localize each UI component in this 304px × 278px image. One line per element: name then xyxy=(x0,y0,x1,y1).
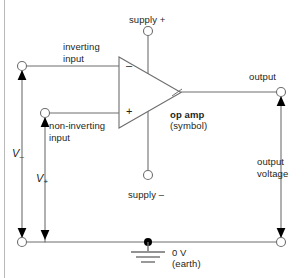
terminal-output[interactable] xyxy=(277,88,286,97)
output-voltage-label: outputvoltage xyxy=(257,156,288,179)
arrowhead-output-voltage-up xyxy=(277,96,286,106)
terminal-inverting-input[interactable] xyxy=(18,62,27,71)
arrowhead-output-voltage-down xyxy=(277,228,286,238)
v-minus-subscript: – xyxy=(19,152,24,161)
circuit-diagram-canvas: supply + supply – invertinginput non-inv… xyxy=(0,0,304,278)
terminal-ground-left[interactable] xyxy=(18,238,27,247)
terminal-supply-plus[interactable] xyxy=(144,27,153,36)
output-label: output xyxy=(249,71,276,83)
v-minus-label: V– xyxy=(12,148,24,163)
terminal-supply-minus[interactable] xyxy=(144,171,153,180)
terminal-non-inverting-input[interactable] xyxy=(41,109,50,118)
inverting-input-label: invertinginput xyxy=(63,41,100,64)
ground-voltage-label: 0 V xyxy=(172,247,187,259)
arrowhead-v-minus-down xyxy=(18,228,27,238)
circuit-schematic-svg xyxy=(0,0,304,278)
earth-symbol xyxy=(131,242,165,262)
non-inverting-input-label: non-invertinginput xyxy=(49,120,105,143)
op-amp-name-label: op amp xyxy=(170,109,204,121)
non-inverting-terminal-sign: + xyxy=(126,106,133,118)
supply-plus-label: supply + xyxy=(129,14,165,26)
arrowhead-v-minus-up xyxy=(18,70,27,80)
v-plus-subscript: + xyxy=(43,177,48,186)
supply-minus-label: supply – xyxy=(128,189,164,201)
inverting-terminal-sign: – xyxy=(126,60,132,72)
ground-earth-label: (earth) xyxy=(172,258,201,270)
arrowhead-v-plus-down xyxy=(41,230,50,240)
terminal-ground-right[interactable] xyxy=(277,238,286,247)
op-amp-symbol-label: (symbol) xyxy=(170,120,207,132)
v-plus-label: V+ xyxy=(36,173,48,188)
